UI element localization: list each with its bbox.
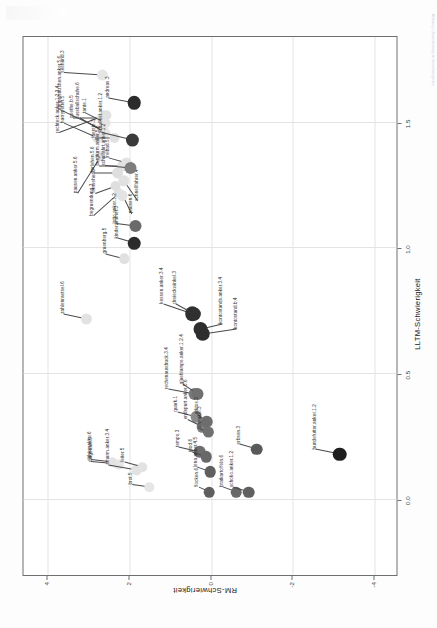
data-point-label: brot.5: [127, 472, 132, 484]
data-point-label: tante.1: [81, 98, 86, 113]
gridline-vertical: [23, 373, 396, 374]
data-point[interactable]: [117, 191, 127, 201]
gridline-vertical: [23, 122, 396, 123]
data-point[interactable]: [127, 237, 141, 251]
data-point-label: rechenausdruck.3.4: [164, 347, 169, 389]
data-point[interactable]: [196, 327, 210, 341]
gridline-horizontal: [129, 37, 130, 575]
data-point-label: ipod.6: [187, 439, 192, 452]
data-point-label: erbsen.3: [236, 426, 241, 445]
y-tick-mark: [210, 576, 211, 580]
data-point-label: kontostand.b.4: [232, 297, 237, 329]
data-point[interactable]: [333, 448, 347, 462]
data-point-label: pausen.anker.5.6: [72, 156, 77, 193]
data-point[interactable]: [203, 486, 215, 498]
y-tick-label: -4: [369, 582, 376, 598]
data-point[interactable]: [250, 444, 262, 456]
data-point[interactable]: [129, 220, 141, 232]
data-point[interactable]: [202, 426, 213, 437]
data-point-label: leiter.5: [120, 448, 125, 462]
gridline-horizontal: [47, 37, 48, 575]
data-point-label: darlehen.5.6: [90, 146, 95, 173]
data-point-label: gruenberg.5: [101, 228, 106, 254]
data-point-label: lena.anker.4.5: [192, 437, 197, 467]
y-tick-label: 0: [206, 582, 213, 598]
data-point-label: schaukel.3: [196, 406, 201, 429]
scanned-page: zahlenraetsel.6gruenberg.5pausen.anker.5…: [0, 0, 437, 628]
gridline-horizontal: [374, 37, 375, 575]
x-tick-mark: [397, 123, 401, 124]
data-point[interactable]: [124, 162, 136, 174]
x-tick-label: 1.0: [403, 243, 410, 257]
y-tick-mark: [373, 576, 374, 580]
data-point-label: pausen.6: [127, 194, 132, 214]
y-tick-mark: [291, 576, 292, 580]
data-point[interactable]: [200, 451, 212, 463]
data-point[interactable]: [126, 134, 139, 147]
y-tick-label: -2: [287, 582, 294, 598]
y-axis-title: RM-Schwierigkeit: [125, 586, 285, 595]
data-point[interactable]: [187, 307, 200, 320]
x-tick-mark: [397, 374, 401, 375]
x-tick-label: 0.5: [403, 368, 410, 382]
data-point-label: smurm.anker.3.4: [104, 429, 109, 465]
data-point-label: schulfest.anker.1.2: [98, 93, 103, 133]
y-tick-mark: [46, 576, 47, 580]
y-tick-label: 2: [124, 582, 131, 598]
data-point-label: dreieckwinkel.3: [172, 271, 177, 304]
data-point-label: quark.1: [173, 396, 178, 412]
data-point-label: zahlenraetsel.6: [59, 281, 64, 314]
data-point-label: endspurt.anker.5.6: [183, 379, 188, 419]
data-point-label: kontostands.anker.3.4: [218, 277, 223, 324]
gridline-vertical: [23, 248, 396, 249]
y-tick-mark: [128, 576, 129, 580]
data-point-label: flocken.6: [194, 468, 199, 487]
data-point-label: andreas.3: [104, 76, 109, 97]
data-point-label: bratkartoffeln.6: [218, 455, 223, 487]
gridline-vertical: [23, 499, 396, 500]
x-tick-label: 1.5: [403, 117, 410, 131]
data-point[interactable]: [204, 466, 216, 478]
data-point-label: schoko.anker.1.2: [228, 451, 233, 487]
x-tick-mark: [397, 500, 401, 501]
data-point-label: kessen.anker.3.4: [159, 267, 164, 303]
x-tick-mark: [397, 249, 401, 250]
data-point-label: hundefutter.anker.1.2: [311, 404, 316, 449]
data-point-label: goethe.b.5: [68, 95, 73, 118]
y-tick-label: 4: [42, 582, 49, 598]
data-point[interactable]: [119, 253, 129, 263]
scatter-figure: zahlenraetsel.6gruenberg.5pausen.anker.5…: [0, 0, 437, 628]
data-point-label: tempo.3: [174, 430, 179, 447]
data-point[interactable]: [143, 482, 153, 492]
gridline-horizontal: [292, 37, 293, 575]
data-point[interactable]: [81, 313, 92, 324]
data-point-label: schnellfahrer.4: [134, 169, 139, 200]
data-point-label: kinderzimmer.3: [113, 206, 118, 239]
data-point-label: gluehlampe.anker.1.2.4: [178, 334, 183, 384]
margin-note: Abbildung 1. Zusammenhang der Itemschwie…: [413, 14, 435, 614]
data-point[interactable]: [127, 96, 141, 110]
data-point-label: seehund.3: [59, 50, 64, 72]
x-tick-label: 0.0: [403, 494, 410, 508]
data-point-label: fuerste.3: [90, 119, 95, 138]
data-point-label: lithiumakku.6: [86, 431, 91, 459]
data-point-label: fussballschuhe.6: [75, 82, 80, 118]
data-point[interactable]: [137, 462, 147, 472]
data-point-label: rechteck.anker.1.2.3.4: [55, 86, 60, 133]
plot-area: zahlenraetsel.6gruenberg.5pausen.anker.5…: [22, 36, 397, 576]
data-point[interactable]: [242, 486, 254, 498]
